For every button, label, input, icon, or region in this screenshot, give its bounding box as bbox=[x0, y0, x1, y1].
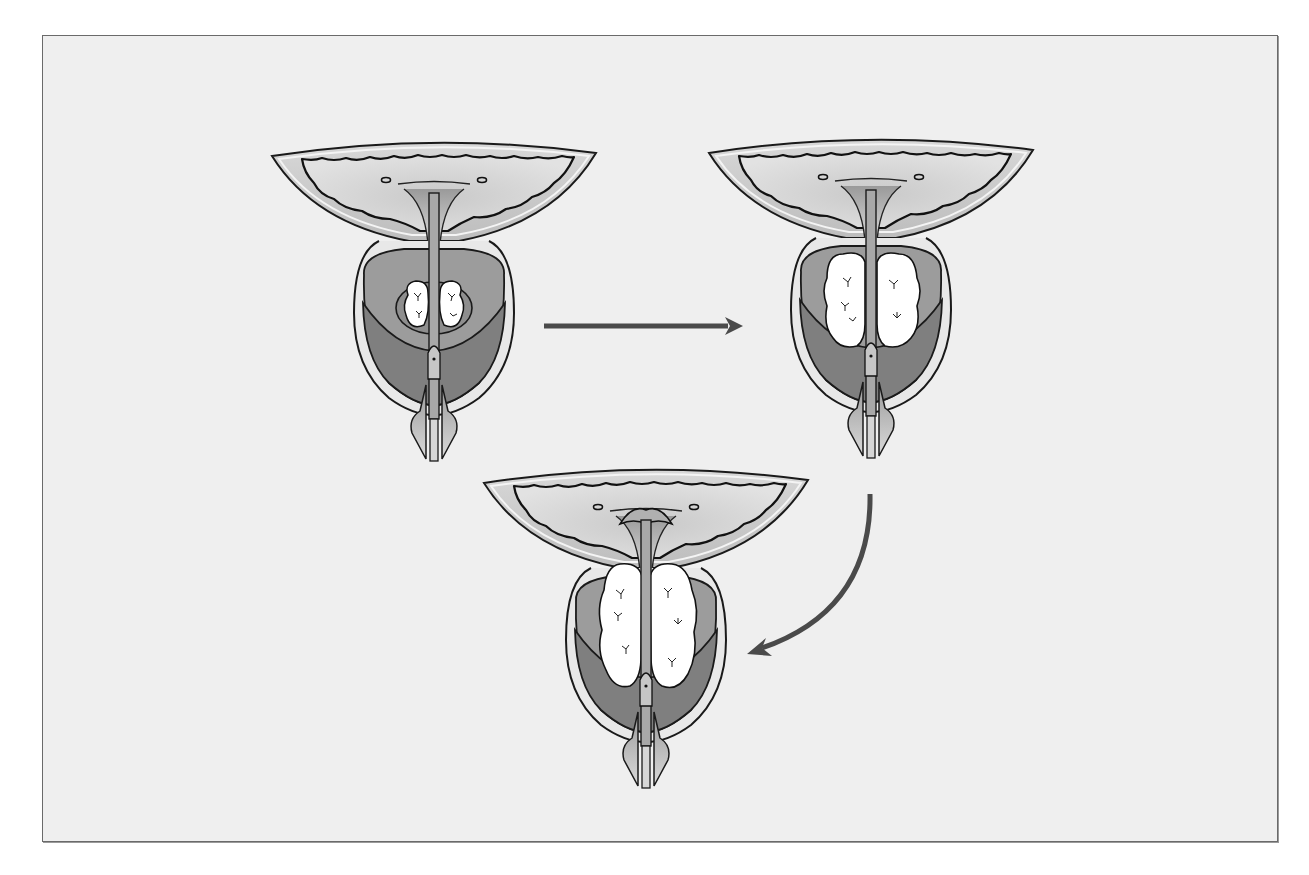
adenoma-left bbox=[824, 253, 865, 347]
stage-1-diagram bbox=[272, 143, 596, 461]
prostate-diagram bbox=[0, 0, 1309, 875]
adenoma-right bbox=[650, 564, 697, 688]
stage-2-diagram bbox=[709, 140, 1033, 458]
arrow-stage1-to-stage2 bbox=[544, 317, 743, 335]
stage-3-diagram bbox=[484, 470, 808, 788]
adenoma-right bbox=[877, 253, 920, 347]
adenoma-left bbox=[404, 281, 428, 327]
adenoma-left bbox=[599, 564, 642, 687]
adenoma-right bbox=[440, 281, 464, 327]
